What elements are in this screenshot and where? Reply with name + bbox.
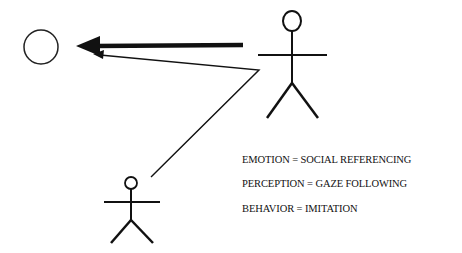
child-right-leg — [131, 220, 153, 243]
child-left-leg — [111, 220, 131, 243]
child-head — [125, 177, 137, 189]
adult-head — [283, 11, 301, 31]
legend-behavior: BEHAVIOR = IMITATION — [242, 203, 357, 214]
object-circle — [24, 30, 58, 64]
joint-attention-diagram — [0, 0, 462, 253]
child-gaze-arrow — [93, 50, 259, 177]
adult-right-leg — [292, 83, 318, 118]
adult-left-leg — [267, 83, 292, 118]
legend-emotion: EMOTION = SOCIAL REFERENCING — [242, 154, 411, 165]
child-figure — [104, 177, 160, 243]
legend-perception: PERCEPTION = GAZE FOLLOWING — [242, 178, 407, 189]
adult-figure — [258, 11, 327, 118]
